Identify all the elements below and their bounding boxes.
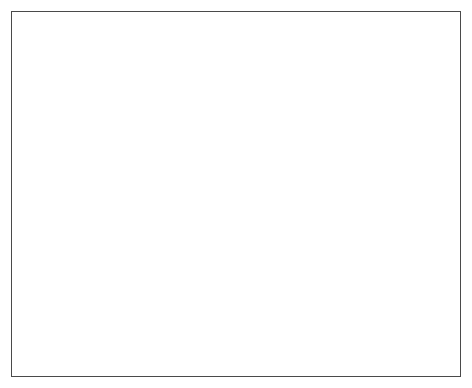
chart-frame-border (11, 11, 461, 377)
chart-canvas: 0200400600800100012001400193819421946195… (0, 0, 472, 388)
